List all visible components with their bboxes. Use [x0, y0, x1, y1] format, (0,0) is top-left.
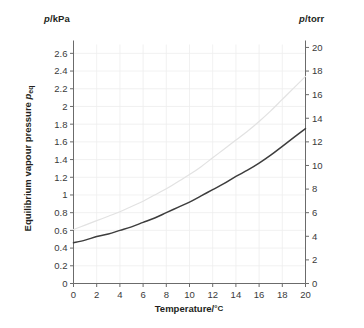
right-y-tick-label: 4: [312, 231, 317, 242]
x-tick-label: 4: [117, 289, 122, 300]
right-y-tick-label: 0: [312, 278, 317, 289]
x-tick-label: 10: [184, 289, 195, 300]
x-tick-label: 20: [300, 289, 311, 300]
x-tick-label: 8: [164, 289, 169, 300]
x-tick-label: 16: [254, 289, 265, 300]
left-y-tick-label: 0.4: [54, 242, 67, 253]
left-y-tick-label: 2: [62, 101, 67, 112]
left-y-tick-label: 0.8: [54, 207, 67, 218]
x-tick-label: 0: [71, 289, 76, 300]
right-y-tick-label: 14: [312, 113, 323, 124]
left-y-tick-label: 2.2: [54, 83, 67, 94]
right-y-tick-label: 16: [312, 89, 323, 100]
chart-figure: p/kPa p/torr Equilibrium vapour pressure…: [0, 0, 364, 328]
left-y-tick-label: 1.4: [54, 154, 67, 165]
x-tick-label: 6: [140, 289, 145, 300]
left-y-tick-label: 1.2: [54, 172, 67, 183]
x-tick-label: 14: [231, 289, 242, 300]
left-y-tick-label: 1.6: [54, 136, 67, 147]
right-y-tick-label: 20: [312, 42, 323, 53]
x-tick-label: 18: [277, 289, 288, 300]
left-y-tick-label: 0.6: [54, 225, 67, 236]
right-y-tick-label: 6: [312, 207, 317, 218]
right-y-tick-label: 2: [312, 254, 317, 265]
left-y-tick-label: 0.2: [54, 260, 67, 271]
right-y-tick-label: 8: [312, 183, 317, 194]
left-y-tick-label: 1.8: [54, 119, 67, 130]
gridlines: [74, 45, 306, 284]
x-tick-label: 2: [94, 289, 99, 300]
x-tick-label: 12: [207, 289, 218, 300]
right-y-tick-label: 18: [312, 65, 323, 76]
left-y-tick-label: 2.6: [54, 48, 67, 59]
plot-area: 00.20.40.60.811.21.41.61.822.22.42.60246…: [0, 0, 364, 328]
left-y-tick-label: 2.4: [54, 65, 67, 76]
left-y-tick-label: 0: [62, 278, 67, 289]
left-y-tick-label: 1: [62, 189, 67, 200]
right-y-tick-label: 12: [312, 136, 323, 147]
right-y-tick-label: 10: [312, 160, 323, 171]
